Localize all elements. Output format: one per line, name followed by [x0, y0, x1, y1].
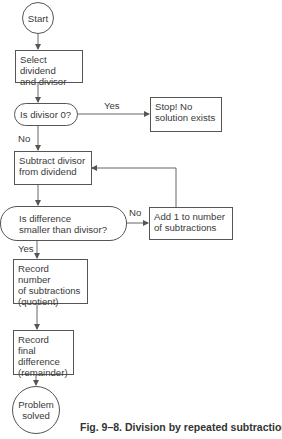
step-text-line: Stop! No	[155, 101, 217, 112]
record-quotient-step: Record number of subtractions (quotient)	[13, 259, 88, 304]
is-divisor-zero-decision: Is divisor 0?	[14, 103, 78, 126]
step-text-line: difference	[18, 356, 69, 367]
step-text-line: Record number	[18, 263, 83, 285]
decision-text: Is divisor 0?	[20, 109, 71, 120]
step-text-line: Subtract divisor	[19, 155, 87, 166]
step-text-line: of subtractions	[154, 222, 228, 233]
select-dividend-divisor-step: Select dividend and divisor	[15, 50, 83, 83]
edge-addone-subtract	[92, 168, 176, 207]
step-text-line: of subtractions	[18, 285, 83, 296]
start-node: Start	[22, 2, 54, 34]
step-text-line: Add 1 to number	[154, 211, 228, 222]
problem-solved-end-node: Problem solved	[12, 386, 60, 434]
end-text-line: solved	[22, 410, 50, 421]
step-text-line: solution exists	[155, 112, 217, 123]
step-text-line: (remainder)	[18, 367, 69, 378]
edge-label-yes: Yes	[18, 243, 34, 254]
step-text-line: Select dividend	[20, 54, 78, 76]
add-one-to-subtractions-step: Add 1 to number of subtractions	[149, 207, 233, 240]
decision-text-line: Is difference	[19, 213, 71, 224]
edge-label-no: No	[18, 133, 30, 144]
step-text-line: (quotient)	[18, 296, 83, 307]
is-difference-smaller-decision: Is difference smaller than divisor?	[0, 206, 127, 241]
decision-text-line: smaller than divisor?	[19, 224, 107, 235]
end-text-line: Problem	[18, 399, 54, 410]
step-text-line: and divisor	[20, 76, 78, 87]
step-text-line: from dividend	[19, 166, 87, 177]
record-remainder-step: Record final difference (remainder)	[13, 330, 74, 375]
step-text-line: Record final	[18, 334, 69, 356]
edge-label-yes: Yes	[104, 100, 120, 111]
stop-no-solution-step: Stop! No solution exists	[150, 97, 222, 132]
edge-label-no: No	[129, 207, 141, 218]
figure-caption: Fig. 9–8. Division by repeated subtracti…	[80, 421, 282, 433]
subtract-divisor-step: Subtract divisor from dividend	[14, 151, 92, 185]
start-label: Start	[28, 13, 48, 24]
